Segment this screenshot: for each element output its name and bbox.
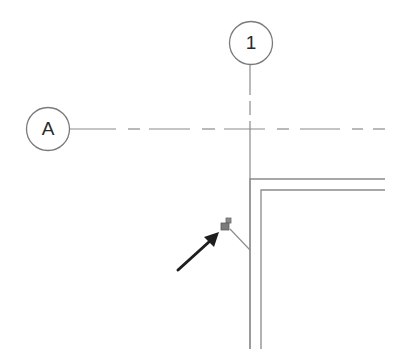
wall[interactable] [250, 179, 385, 349]
arrow-icon [178, 232, 219, 270]
wall-outer-face [250, 179, 385, 349]
padlock-icon[interactable] [221, 218, 231, 230]
grid-line-1[interactable] [230, 22, 273, 350]
grid-label-a: A [26, 107, 70, 151]
plan-view [0, 0, 400, 360]
lock-leader-line [230, 229, 250, 250]
drawing-canvas: 1 A [0, 0, 400, 360]
wall-inner-face [261, 190, 385, 349]
grid-line-a[interactable] [27, 108, 386, 151]
grid-label-1: 1 [229, 21, 273, 65]
